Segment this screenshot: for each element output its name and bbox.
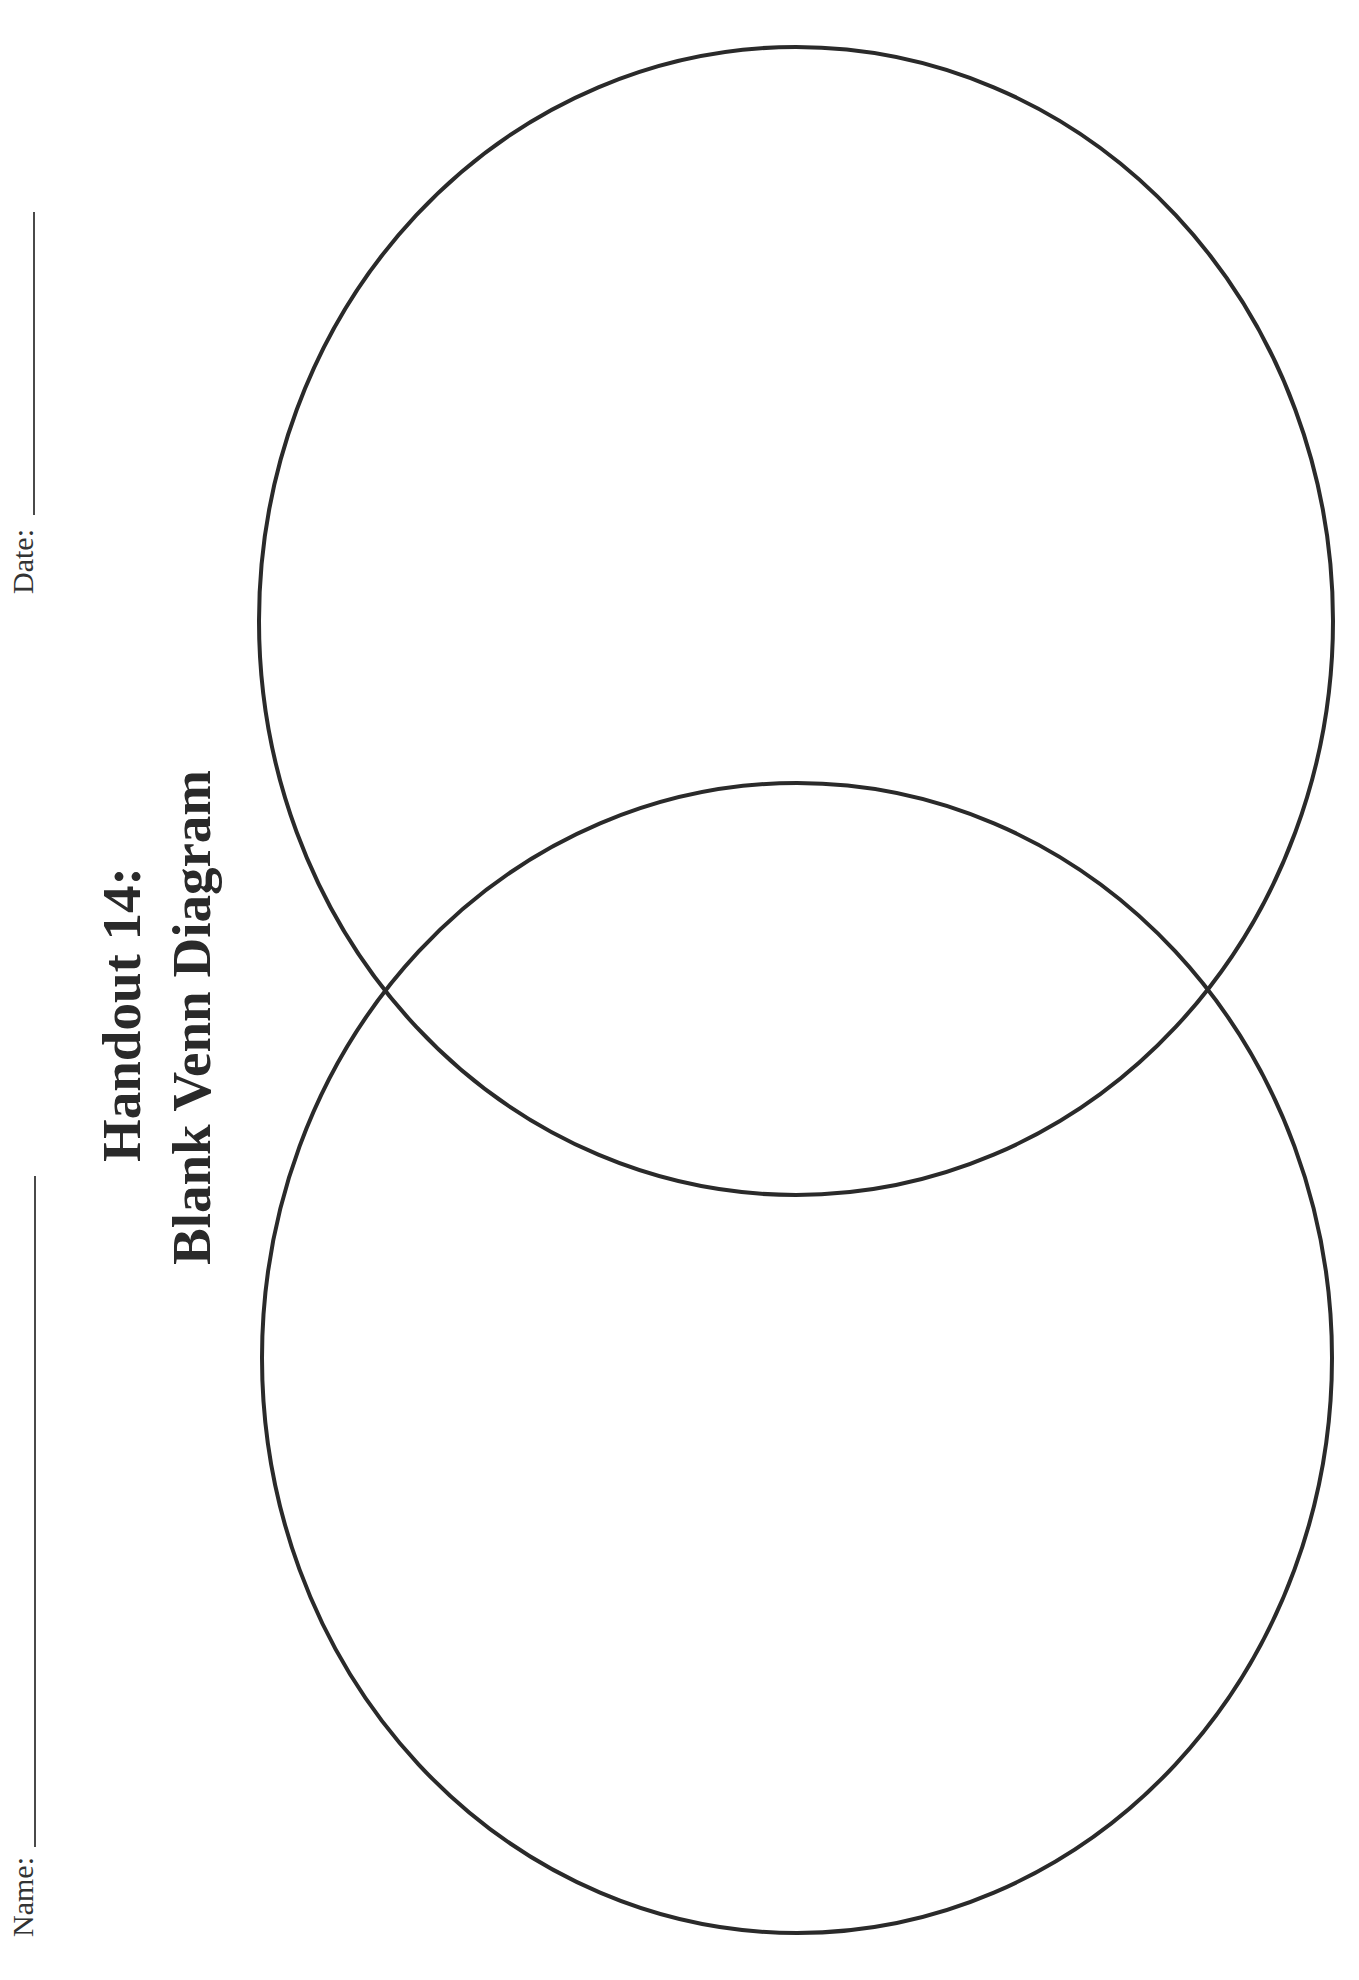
handout-title-line2: Blank Venn Diagram — [164, 770, 219, 1265]
date-label: Date: — [8, 529, 38, 594]
venn-circle-bottom[interactable] — [262, 783, 1332, 1933]
name-label: Name: — [8, 1857, 38, 1937]
venn-circle-top[interactable] — [259, 47, 1333, 1195]
handout-page: Name: Date: Handout 14: Blank Venn Diagr… — [0, 0, 1359, 1980]
handout-title-line1: Handout 14: — [94, 867, 149, 1162]
name-blank-line[interactable] — [34, 1176, 36, 1847]
date-blank-line[interactable] — [33, 212, 35, 515]
